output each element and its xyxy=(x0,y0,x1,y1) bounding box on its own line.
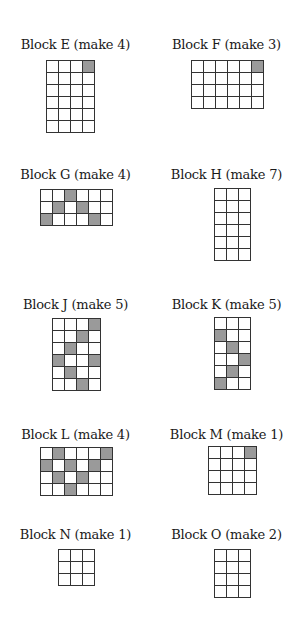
grid-cell xyxy=(89,367,101,379)
grid-cell xyxy=(239,225,251,237)
grid-cell xyxy=(101,202,113,214)
grid-cell xyxy=(240,97,252,109)
grid-cell xyxy=(101,484,113,496)
grid-cell xyxy=(89,190,101,202)
grid-cell xyxy=(59,574,71,586)
grid-cell xyxy=(227,354,239,366)
grid-cell xyxy=(71,109,83,121)
grid-cell xyxy=(89,343,101,355)
grid-cell xyxy=(239,189,251,201)
grid-cell xyxy=(216,97,228,109)
grid-cell xyxy=(192,97,204,109)
grid-cell xyxy=(233,447,245,459)
grid-cell xyxy=(53,460,65,472)
grid-cell xyxy=(65,472,77,484)
grid-cell xyxy=(252,97,264,109)
block-l: Block L (make 4) xyxy=(0,427,151,443)
grid-cell xyxy=(216,85,228,97)
block-grid xyxy=(214,317,251,390)
grid-cell xyxy=(239,562,251,574)
grid-cell xyxy=(227,318,239,330)
grid-cell xyxy=(83,121,95,133)
grid-cell xyxy=(71,97,83,109)
grid-cell xyxy=(215,249,227,261)
grid-cell xyxy=(216,73,228,85)
grid-cell xyxy=(209,471,221,483)
grid-cell xyxy=(77,343,89,355)
grid-cell xyxy=(71,85,83,97)
grid-cell xyxy=(53,379,65,391)
grid-cell xyxy=(53,190,65,202)
shaded-cell xyxy=(53,355,65,367)
grid-cell xyxy=(53,367,65,379)
shaded-cell xyxy=(89,214,101,226)
grid-cell xyxy=(227,225,239,237)
grid-cell xyxy=(233,459,245,471)
grid-cell xyxy=(209,459,221,471)
shaded-cell xyxy=(53,472,65,484)
grid-cell xyxy=(59,550,71,562)
grid-cell xyxy=(233,471,245,483)
shaded-cell xyxy=(89,355,101,367)
grid-cell xyxy=(53,484,65,496)
grid-cell xyxy=(59,109,71,121)
grid-cell xyxy=(239,378,251,390)
grid-cell xyxy=(239,330,251,342)
shaded-cell xyxy=(65,190,77,202)
block-title: Block K (make 5) xyxy=(151,297,302,313)
shaded-cell xyxy=(65,367,77,379)
grid-cell xyxy=(77,367,89,379)
shaded-cell xyxy=(89,319,101,331)
shaded-cell xyxy=(89,460,101,472)
grid-cell xyxy=(59,97,71,109)
grid-cell xyxy=(83,109,95,121)
grid-cell xyxy=(245,471,257,483)
grid-cell xyxy=(77,190,89,202)
block-n: Block N (make 1) xyxy=(0,527,151,543)
grid-cell xyxy=(215,213,227,225)
block-f: Block F (make 3) xyxy=(151,37,302,53)
grid-cell xyxy=(227,550,239,562)
grid-cell xyxy=(215,366,227,378)
block-grid xyxy=(214,188,251,261)
shaded-cell xyxy=(65,343,77,355)
block-k: Block K (make 5) xyxy=(151,297,302,313)
shaded-cell xyxy=(41,214,53,226)
grid-cell xyxy=(101,460,113,472)
grid-cell xyxy=(239,550,251,562)
grid-cell xyxy=(89,484,101,496)
block-e: Block E (make 4) xyxy=(0,37,151,53)
grid-cell xyxy=(101,472,113,484)
block-title: Block E (make 4) xyxy=(0,37,151,53)
grid-cell xyxy=(47,61,59,73)
grid-cell xyxy=(215,574,227,586)
block-h: Block H (make 7) xyxy=(151,167,302,183)
block-grid xyxy=(191,60,264,109)
grid-cell xyxy=(204,97,216,109)
grid-cell xyxy=(215,586,227,598)
grid-cell xyxy=(71,550,83,562)
grid-cell xyxy=(65,319,77,331)
grid-cell xyxy=(101,214,113,226)
grid-cell xyxy=(245,483,257,495)
grid-cell xyxy=(239,213,251,225)
grid-cell xyxy=(77,214,89,226)
grid-cell xyxy=(53,343,65,355)
grid-cell xyxy=(239,586,251,598)
shaded-cell xyxy=(77,202,89,214)
grid-cell xyxy=(41,448,53,460)
grid-cell xyxy=(83,97,95,109)
grid-cell xyxy=(47,97,59,109)
grid-cell xyxy=(227,237,239,249)
grid-cell xyxy=(215,562,227,574)
grid-cell xyxy=(47,121,59,133)
grid-cell xyxy=(83,574,95,586)
grid-cell xyxy=(89,448,101,460)
grid-cell xyxy=(71,61,83,73)
shaded-cell xyxy=(227,342,239,354)
grid-cell xyxy=(83,85,95,97)
grid-cell xyxy=(240,61,252,73)
grid-cell xyxy=(83,73,95,85)
grid-cell xyxy=(65,214,77,226)
grid-cell xyxy=(41,190,53,202)
